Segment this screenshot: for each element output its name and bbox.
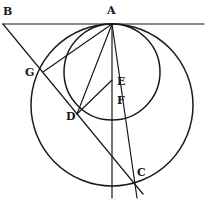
label-g: G: [25, 67, 34, 78]
geometry-diagram: B A G E F D C: [0, 0, 206, 202]
secant-line-bc: [3, 24, 143, 194]
label-e: E: [117, 76, 125, 87]
diagram-drawing: [0, 0, 206, 202]
label-b: B: [3, 6, 12, 17]
label-c: C: [137, 167, 146, 178]
label-a: A: [107, 5, 116, 16]
line-de: [77, 80, 112, 114]
label-f: F: [117, 95, 125, 106]
label-d: D: [66, 111, 76, 122]
line-ad: [77, 24, 112, 114]
